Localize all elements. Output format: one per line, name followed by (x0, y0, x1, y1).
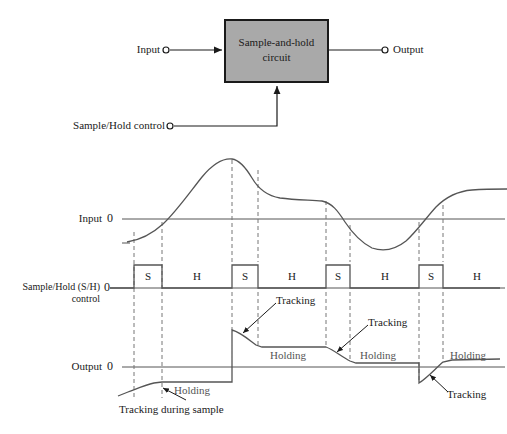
pulse-marker-s-2: S (230, 270, 260, 283)
annotation-holding-3: Holding (360, 349, 396, 362)
output-terminal-label: Output (393, 43, 424, 56)
leader-tracking-2 (337, 325, 368, 352)
annotation-tracking-2: Tracking (368, 316, 407, 329)
annotation-tracking-during-sample: Tracking during sample (119, 403, 224, 416)
block-label-line1: Sample-and-hold (226, 36, 327, 49)
annotation-tracking-3: Tracking (447, 388, 486, 401)
pulse-marker-h-2: H (277, 270, 307, 283)
leader-tracking-3 (430, 375, 448, 392)
sample-and-hold-figure: Sample-and-hold circuit Input Output Sam… (0, 0, 507, 434)
annotation-tracking-1: Tracking (276, 294, 315, 307)
output-axis-label: Output (38, 360, 102, 373)
pulse-marker-h-3: H (370, 270, 400, 283)
control-axis-label-line2: control (0, 293, 100, 305)
input-terminal-label: Input (88, 43, 160, 56)
pulse-marker-s-3: S (323, 270, 353, 283)
output-terminal-node (382, 47, 388, 53)
pulse-marker-h-4: H (462, 270, 492, 283)
pulse-marker-h-1: H (182, 270, 212, 283)
pulse-marker-s-1: S (133, 270, 163, 283)
annotation-holding-1: Holding (174, 384, 210, 397)
input-axis-label: Input (40, 212, 102, 225)
output-axis-zero: 0 (107, 360, 113, 374)
annotation-holding-2: Holding (270, 349, 306, 362)
control-terminal-node (167, 123, 173, 129)
waveform-axes-group (110, 219, 505, 367)
input-waveform-group (122, 159, 507, 250)
control-axis-zero: 0 (104, 281, 110, 295)
annotation-holding-4: Holding (450, 349, 486, 362)
input-terminal-node (163, 47, 169, 53)
pulse-marker-s-4: S (416, 270, 446, 283)
control-terminal-label: Sample/Hold control (35, 119, 165, 132)
block-label-line2: circuit (226, 51, 327, 64)
input-axis-zero: 0 (107, 212, 113, 226)
leader-tracking-1 (243, 303, 276, 333)
control-axis-label-line1: Sample/Hold (S/H) (0, 281, 100, 293)
control-wire (174, 86, 277, 126)
input-signal-curve (127, 159, 507, 250)
